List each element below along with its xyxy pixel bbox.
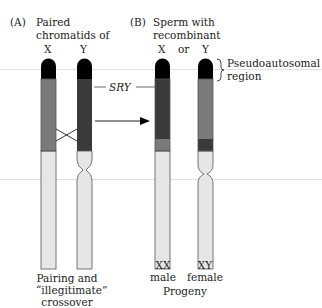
panel-b-or-label: or bbox=[178, 43, 189, 55]
panel-b-x-label: X bbox=[158, 43, 165, 55]
progeny-label: Progeny bbox=[160, 285, 210, 297]
progeny-xy-line1: XY bbox=[192, 259, 218, 271]
crossover-mark bbox=[56, 129, 77, 141]
panel-b-y-label: Y bbox=[202, 43, 209, 55]
progeny-xy-line2: female bbox=[186, 271, 224, 283]
panel-b-title-line2: recombinant bbox=[153, 29, 220, 41]
chromosome-b-x bbox=[155, 59, 170, 270]
panel-a-caption-line3: crossover bbox=[36, 296, 98, 308]
panel-a-x-label: X bbox=[44, 43, 51, 55]
pseudoautosomal-label-line1: Pseudoautosomal bbox=[227, 57, 320, 69]
panel-a-label: (A) bbox=[10, 16, 26, 28]
arrow-icon bbox=[95, 117, 150, 125]
panel-a-caption-line1: Pairing and bbox=[36, 272, 98, 284]
panel-a-title-line2: chromatids of bbox=[36, 29, 109, 41]
panel-a-title-line1: Paired bbox=[36, 16, 70, 28]
sry-label: SRY bbox=[109, 81, 131, 93]
panel-a-y-label: Y bbox=[80, 43, 87, 55]
panel-b-label: (B) bbox=[130, 16, 146, 28]
panel-a-caption-line2: “illegitimate” bbox=[36, 284, 98, 296]
chromatid-a-x bbox=[41, 59, 56, 270]
progeny-xx-line2: male bbox=[148, 271, 178, 283]
panel-b-title-line1: Sperm with bbox=[153, 16, 215, 28]
pseudoautosomal-label-line2: region bbox=[227, 70, 261, 82]
chromosome-b-y bbox=[198, 59, 213, 270]
chromatid-a-y bbox=[77, 59, 92, 270]
brace-icon bbox=[217, 59, 224, 81]
progeny-xx-line1: XX bbox=[150, 259, 176, 271]
